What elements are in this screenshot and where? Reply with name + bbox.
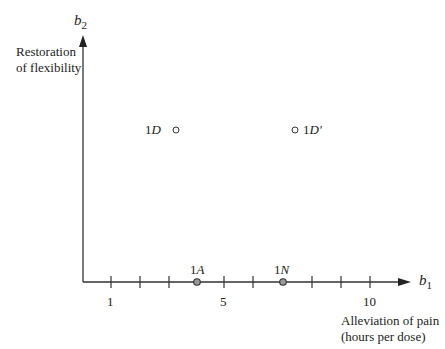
point-1A-marker xyxy=(194,279,201,286)
x-axis-title-line2: (hours per dose) xyxy=(341,329,425,345)
y-axis-symbol: b2 xyxy=(74,12,87,33)
point-1D-marker xyxy=(173,127,179,133)
x-tick-label-1: 1 xyxy=(107,294,114,310)
x-tick-label-10: 10 xyxy=(363,294,376,310)
point-1N-label: 1N xyxy=(274,262,289,278)
x-axis-arrowhead xyxy=(398,278,411,286)
point-1N-marker xyxy=(280,279,287,286)
x-tick-label-5: 5 xyxy=(220,294,227,310)
point-1D-prime-label: 1D' xyxy=(303,122,322,138)
point-1D-prime-marker xyxy=(292,127,298,133)
y-axis-title-line1: Restoration xyxy=(16,44,76,60)
point-1D-label: 1D xyxy=(145,122,161,138)
x-axis-symbol: b1 xyxy=(419,272,432,293)
point-1A-label: 1A xyxy=(190,262,204,278)
y-axis-arrowhead xyxy=(79,35,87,47)
x-axis-title-line1: Alleviation of pain xyxy=(341,313,439,329)
y-axis-title-line2: of flexibility xyxy=(16,60,81,76)
